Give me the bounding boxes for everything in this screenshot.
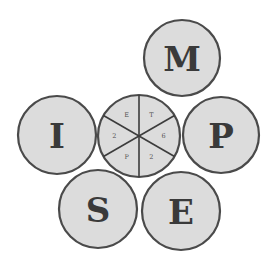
circle-e: E [142,172,220,250]
center-circle: ET62P2 [98,95,180,177]
circle-p-letter: P [208,116,234,156]
segment-label: E [124,111,129,119]
circle-i-letter: I [49,116,65,156]
segment-label: P [125,153,130,161]
segment-label: 2 [112,132,116,140]
circle-i: I [18,96,96,174]
segment-label: T [149,111,154,119]
segment-label: 2 [149,153,153,161]
circle-m-letter: M [163,39,201,79]
circle-m: M [144,20,220,96]
circle-e-letter: E [168,192,194,232]
mipse-circle-diagram: MIPSE ET62P2 [0,0,277,266]
segment-label: 6 [162,132,166,140]
circle-s-letter: S [86,190,111,230]
circle-s: S [59,170,137,248]
circle-p: P [183,97,259,173]
